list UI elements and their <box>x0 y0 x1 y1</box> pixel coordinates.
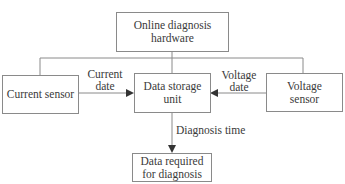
current-sensor-label: Current sensor <box>7 88 74 101</box>
required-label-line1: Data required <box>141 155 204 168</box>
voltage-date-edge-label: Voltage date <box>216 69 262 93</box>
current-sensor-box: Current sensor <box>2 75 79 114</box>
storage-label-line2: unit <box>164 93 182 106</box>
storage-label-line1: Data storage <box>144 80 202 93</box>
arrow-down-icon <box>168 145 176 153</box>
voltage-sensor-box: Voltage sensor <box>266 73 343 112</box>
hardware-label-line1: Online diagnosis <box>134 19 212 32</box>
voltage-sensor-label-line1: Voltage <box>287 80 322 93</box>
required-label-line2: for diagnosis <box>142 168 202 181</box>
diagnosis-time-edge-label: Diagnosis time <box>176 124 246 136</box>
online-diagnosis-hardware-box: Online diagnosis hardware <box>116 12 229 52</box>
data-required-box: Data required for diagnosis <box>132 153 212 182</box>
voltage-sensor-label-line2: sensor <box>290 93 319 106</box>
hardware-label-line2: hardware <box>151 32 194 45</box>
arrow-right-icon <box>126 89 134 97</box>
current-date-edge-label: Current date <box>84 68 126 92</box>
data-storage-unit-box: Data storage unit <box>134 73 211 113</box>
